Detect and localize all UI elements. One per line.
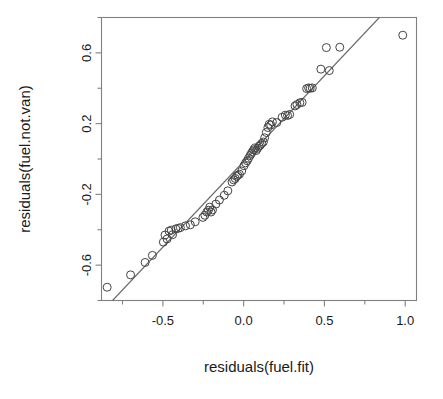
x-axis-tick-labels: -0.50.00.51.0 [152, 313, 415, 328]
x-tick-label: -0.5 [152, 313, 174, 328]
y-axis-title: residuals(fuel.not.van) [16, 85, 33, 233]
data-point [336, 43, 344, 51]
plot-canvas: -0.50.00.51.0 -0.6-0.20.20.6 residuals(f… [0, 0, 443, 399]
data-point [399, 31, 407, 39]
data-point [317, 65, 325, 73]
data-point [199, 213, 207, 221]
data-point [322, 44, 330, 52]
x-axis-title: residuals(fuel.fit) [204, 358, 314, 375]
x-tick-label: 0.5 [315, 313, 333, 328]
scatter-points [103, 31, 407, 291]
x-tick-label: 1.0 [396, 313, 414, 328]
r-scatter-plot-figure: -0.50.00.51.0 -0.6-0.20.20.6 residuals(f… [0, 0, 443, 399]
x-tick-label: 0.0 [235, 313, 253, 328]
x-axis-ticks [123, 301, 406, 307]
data-point [103, 283, 111, 291]
y-tick-label: -0.2 [79, 183, 94, 205]
y-tick-label: 0.2 [79, 115, 94, 133]
y-axis-tick-labels: -0.6-0.20.20.6 [79, 44, 94, 276]
y-axis-ticks [96, 18, 102, 301]
data-point [262, 128, 270, 136]
y-tick-label: -0.6 [79, 254, 94, 276]
y-tick-label: 0.6 [79, 44, 94, 62]
data-point [127, 271, 135, 279]
